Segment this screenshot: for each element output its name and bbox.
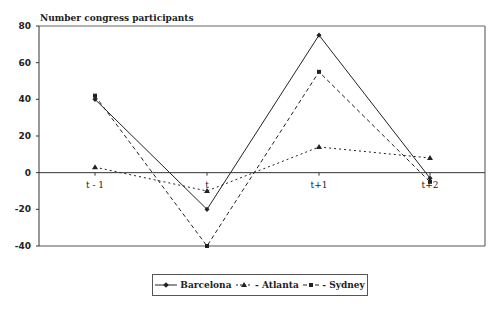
- plot-frame: [39, 26, 485, 246]
- svg-text:0: 0: [25, 168, 31, 178]
- svg-text:-20: -20: [15, 204, 31, 214]
- legend-item-barcelona: Barcelona: [155, 280, 231, 290]
- line-chart: Number congress participants 806040200-2…: [0, 0, 503, 311]
- svg-text:60: 60: [18, 58, 31, 68]
- legend-item-sydney: - Sydney: [303, 280, 364, 290]
- legend: Barcelona - Atlanta - Sydney: [152, 274, 368, 296]
- svg-text:40: 40: [18, 94, 31, 104]
- y-axis-ticks: 806040200-20-40: [15, 21, 39, 251]
- svg-text:t - 1: t - 1: [86, 180, 104, 190]
- svg-text:80: 80: [18, 21, 31, 31]
- series-lines: [92, 33, 433, 248]
- legend-item-atlanta: - Atlanta: [236, 280, 299, 290]
- y-axis-title: Number congress participants: [40, 13, 193, 23]
- dotted-line-triangle-icon: [236, 281, 252, 289]
- svg-text:t+1: t+1: [311, 180, 328, 190]
- dashed-line-square-icon: [303, 281, 319, 289]
- solid-line-diamond-icon: [155, 281, 177, 289]
- svg-text:20: 20: [18, 131, 31, 141]
- svg-text:-40: -40: [15, 241, 31, 251]
- svg-text:t: t: [205, 180, 209, 190]
- x-axis-categories: t - 1tt+1t+2: [86, 173, 439, 190]
